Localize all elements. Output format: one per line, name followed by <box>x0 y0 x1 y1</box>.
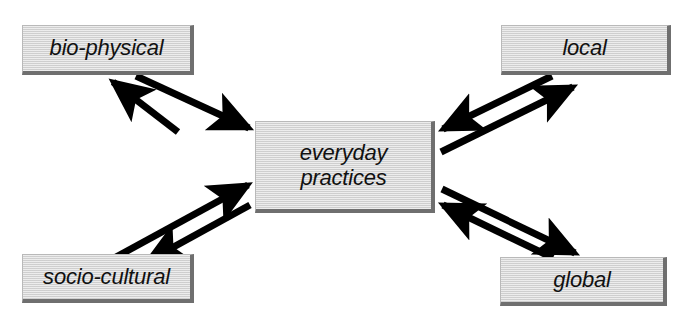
node-local-label: local <box>562 36 606 61</box>
connection-center-to-global <box>442 189 575 253</box>
node-socio-cultural: socio-cultural <box>22 254 194 303</box>
node-bio-physical: bio-physical <box>22 25 194 75</box>
node-socio-cultural-label: socio-cultural <box>43 265 170 290</box>
connection-bio-physical-to-center <box>136 76 249 128</box>
diagram-canvas: bio-physical local everyday practices so… <box>0 0 685 314</box>
node-global: global <box>500 257 667 306</box>
node-global-label: global <box>553 268 611 293</box>
node-everyday-practices-label: everyday practices <box>300 141 388 190</box>
node-everyday-practices: everyday practices <box>255 121 435 213</box>
node-bio-physical-label: bio-physical <box>50 36 164 61</box>
node-local: local <box>501 25 671 75</box>
